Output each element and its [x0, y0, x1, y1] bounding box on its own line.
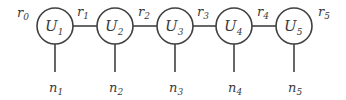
tensor-network-diagram: U1 U2 U3 U4 U5 r0 r1 r2 r3 r4 r5 n1 n2 n… [0, 0, 346, 100]
bond-label-r1: r1 [77, 4, 89, 21]
bond-label-r2: r2 [138, 4, 150, 21]
bond-label-r5: r5 [318, 4, 330, 21]
leg-label-n2: n2 [109, 80, 123, 97]
leg-label-n1: n1 [49, 80, 63, 97]
bond-label-r3: r3 [197, 4, 209, 21]
legs [55, 44, 294, 72]
leg-label-n5: n5 [288, 80, 302, 97]
bond-label-r4: r4 [257, 4, 269, 21]
leg-label-n4: n4 [228, 80, 242, 97]
bond-label-r0: r0 [17, 5, 29, 22]
leg-label-n3: n3 [169, 80, 183, 97]
